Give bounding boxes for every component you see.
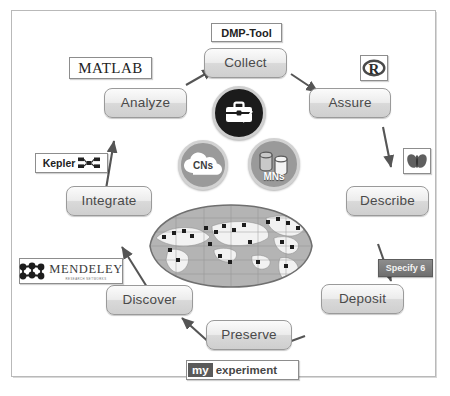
logo-dmp-tool-label: DMP-Tool — [221, 27, 272, 39]
morpho-butterfly-icon — [406, 152, 428, 171]
node-investigator-toolkit[interactable] — [212, 86, 266, 140]
logo-specify[interactable]: Specify 6 — [378, 259, 433, 277]
logo-kepler[interactable]: Kepler — [35, 153, 108, 173]
logo-dmp-tool[interactable]: DMP-Tool — [211, 23, 282, 42]
step-assure[interactable]: Assure — [309, 88, 391, 118]
logo-myexperiment-my: my — [188, 363, 213, 377]
node-cns-label: CNs — [193, 160, 213, 171]
step-collect[interactable]: Collect — [204, 48, 287, 78]
step-preserve-label: Preserve — [221, 328, 277, 342]
step-collect-label: Collect — [224, 56, 267, 70]
logo-specify-label: Specify 6 — [386, 263, 426, 273]
step-deposit[interactable]: Deposit — [321, 284, 404, 314]
step-describe-label: Describe — [360, 194, 415, 208]
workflow-nodes-icon — [78, 156, 100, 170]
node-mns-label: MNs — [263, 171, 284, 182]
logo-matlab[interactable]: MATLAB — [69, 57, 152, 79]
world-map-icon — [148, 204, 314, 288]
node-member-nodes[interactable]: MNs — [248, 138, 300, 190]
toolbox-icon — [223, 100, 255, 126]
step-analyze[interactable]: Analyze — [104, 88, 187, 118]
logo-mendeley-sublabel: RESEARCH NETWORKS — [66, 277, 107, 281]
step-integrate-label: Integrate — [81, 194, 136, 208]
step-assure-label: Assure — [328, 96, 371, 110]
logo-morpho[interactable] — [403, 148, 431, 174]
step-describe[interactable]: Describe — [346, 186, 429, 216]
step-deposit-label: Deposit — [339, 292, 386, 306]
logo-r-project[interactable]: R — [360, 55, 388, 81]
logo-kepler-label: Kepler — [43, 157, 76, 169]
step-integrate[interactable]: Integrate — [66, 186, 152, 216]
logo-myexperiment-word: experiment — [213, 364, 280, 376]
logo-mendeley-label: MENDELEY — [49, 262, 123, 277]
world-map — [148, 204, 314, 288]
logo-matlab-label: MATLAB — [78, 60, 143, 77]
mendeley-molecule-icon — [19, 263, 45, 280]
r-logo-icon: R — [363, 59, 385, 78]
node-coordinating-nodes[interactable]: CNs — [178, 140, 228, 190]
logo-myexperiment[interactable]: my experiment — [186, 360, 299, 380]
step-discover-label: Discover — [122, 293, 176, 307]
step-analyze-label: Analyze — [121, 96, 170, 110]
lifecycle-diagram: Collect Assure Describe Deposit Preserve… — [0, 0, 450, 396]
logo-mendeley[interactable]: MENDELEY RESEARCH NETWORKS — [19, 258, 123, 284]
step-preserve[interactable]: Preserve — [206, 320, 292, 350]
step-discover[interactable]: Discover — [106, 285, 193, 315]
svg-text:R: R — [369, 61, 380, 77]
